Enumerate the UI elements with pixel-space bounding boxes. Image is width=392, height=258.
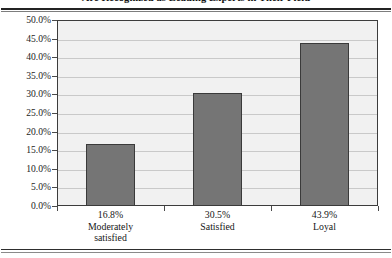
y-axis-tick-mark bbox=[52, 76, 57, 77]
y-axis-tick-label: 0.0% bbox=[0, 201, 51, 211]
bar bbox=[300, 43, 349, 206]
y-axis-tick-mark bbox=[52, 132, 57, 133]
y-axis-tick-label: 40.0% bbox=[0, 52, 51, 62]
y-axis-tick-mark bbox=[52, 169, 57, 170]
y-axis-tick-label: 30.0% bbox=[0, 89, 51, 99]
x-axis: 16.8%Moderatelysatisfied30.5%Satisfied43… bbox=[57, 209, 378, 255]
y-axis-tick-label: 50.0% bbox=[0, 15, 51, 25]
bar bbox=[86, 144, 135, 206]
x-axis-category-label: 16.8%Moderatelysatisfied bbox=[57, 209, 164, 244]
x-axis-separator bbox=[164, 206, 165, 211]
chart-title: Are Recognized as Leading Experts in The… bbox=[0, 0, 392, 4]
x-axis-value-label: 30.5% bbox=[164, 209, 271, 221]
chart-figure: Are Recognized as Leading Experts in The… bbox=[0, 0, 392, 258]
x-axis-separator bbox=[271, 206, 272, 211]
top-divider bbox=[1, 8, 391, 10]
y-axis-tick-mark bbox=[52, 113, 57, 114]
top-divider-thin bbox=[1, 11, 391, 12]
y-axis: 50.0%45.0%40.0%35.0%30.0%25.0%20.0%15.0%… bbox=[0, 20, 51, 206]
y-axis-tick-label: 5.0% bbox=[0, 182, 51, 192]
y-axis-tick-mark bbox=[52, 20, 57, 21]
y-axis-tick-label: 15.0% bbox=[0, 145, 51, 155]
y-axis-tick-mark bbox=[52, 150, 57, 151]
x-axis-category-name: Satisfied bbox=[164, 221, 271, 233]
x-axis-category-name: Moderately bbox=[57, 221, 164, 233]
y-axis-tick-mark bbox=[52, 39, 57, 40]
x-axis-category-name: Loyal bbox=[271, 221, 378, 233]
x-axis-category-label: 43.9%Loyal bbox=[271, 209, 378, 232]
y-axis-tick-label: 25.0% bbox=[0, 108, 51, 118]
x-axis-separator bbox=[378, 206, 379, 211]
bar-series bbox=[57, 20, 378, 206]
x-axis-category-name: satisfied bbox=[57, 232, 164, 244]
y-axis-tick-label: 35.0% bbox=[0, 71, 51, 81]
y-axis-tick-label: 20.0% bbox=[0, 127, 51, 137]
y-axis-tick-mark bbox=[52, 187, 57, 188]
bar bbox=[193, 93, 242, 206]
y-axis-tick-label: 45.0% bbox=[0, 34, 51, 44]
x-axis-value-label: 43.9% bbox=[271, 209, 378, 221]
y-axis-tick-mark bbox=[52, 94, 57, 95]
x-axis-category-label: 30.5%Satisfied bbox=[164, 209, 271, 232]
y-axis-tick-mark bbox=[52, 57, 57, 58]
x-axis-separator bbox=[57, 206, 58, 211]
y-axis-tick-label: 10.0% bbox=[0, 164, 51, 174]
x-axis-value-label: 16.8% bbox=[57, 209, 164, 221]
